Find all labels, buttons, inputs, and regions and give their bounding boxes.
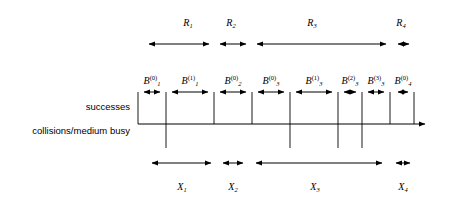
label-subscript: 2	[232, 22, 235, 29]
label-superscript: (2)	[348, 74, 356, 81]
b-interval-label-b1_1: B(1)1	[182, 76, 199, 86]
b-interval-label-b3_2: B(2)3	[342, 76, 359, 86]
label-subscript: 3	[319, 80, 322, 87]
label-subscript: 3	[355, 80, 358, 87]
label-subscript: 1	[195, 80, 198, 87]
label-subscript: 3	[313, 22, 316, 29]
label-subscript: 3	[381, 80, 384, 87]
label-subscript: 3	[316, 186, 319, 193]
label-superscript: (1)	[188, 74, 196, 81]
axis-row-label-collisions: collisions/medium busy	[32, 126, 130, 136]
label-superscript: (3)	[374, 74, 382, 81]
label-superscript: (0)	[269, 74, 277, 81]
label-superscript: (1)	[312, 74, 320, 81]
label-subscript: 2	[238, 80, 241, 87]
label-subscript: 4	[404, 186, 407, 193]
label-subscript: 1	[157, 80, 160, 87]
r-interval-label-r3: R3	[307, 18, 316, 28]
collision-tick-group	[166, 124, 362, 148]
axis-row-label-successes: successes	[86, 102, 130, 112]
label-subscript: 3	[276, 80, 279, 87]
success-tick-group	[138, 92, 414, 124]
x-interval-label-x1: X1	[177, 182, 186, 192]
label-subscript: 1	[183, 186, 186, 193]
label-superscript: (0)	[150, 74, 158, 81]
label-subscript: 4	[402, 22, 405, 29]
label-subscript: 4	[408, 80, 411, 87]
label-superscript: (0)	[401, 74, 409, 81]
diagram-vector-layer	[0, 0, 452, 200]
r-interval-label-r2: R2	[226, 18, 235, 28]
b-interval-label-b3_3: B(3)3	[368, 76, 385, 86]
x-interval-label-x2: X2	[228, 182, 237, 192]
b-interval-label-b4_0: B(0)4	[395, 76, 412, 86]
label-subscript: 2	[234, 186, 237, 193]
diagram-canvas: R1R2R3R4B(0)1B(1)1B(0)2B(0)3B(1)3B(2)3B(…	[0, 0, 452, 200]
b-interval-label-b3_0: B(0)3	[263, 76, 280, 86]
label-superscript: (0)	[231, 74, 239, 81]
x-interval-label-x4: X4	[398, 182, 407, 192]
b-interval-label-b3_1: B(1)3	[306, 76, 323, 86]
x-interval-label-x3: X3	[310, 182, 319, 192]
b-interval-label-b1_0: B(0)1	[144, 76, 161, 86]
label-subscript: 1	[189, 22, 192, 29]
r-interval-label-r1: R1	[183, 18, 192, 28]
b-interval-label-b2_0: B(0)2	[225, 76, 242, 86]
r-interval-label-r4: R4	[396, 18, 405, 28]
